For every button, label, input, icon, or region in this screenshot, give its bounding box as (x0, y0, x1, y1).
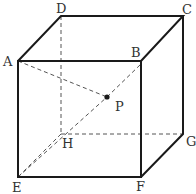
top-face-edges (18, 16, 183, 61)
label-P: P (115, 99, 124, 114)
label-C: C (182, 2, 192, 17)
hidden-edges (18, 16, 183, 177)
cube-diagram: A B C D E F G H P (0, 0, 196, 194)
right-face-edges (141, 16, 183, 177)
label-H: H (62, 136, 73, 151)
label-D: D (56, 1, 66, 16)
point-P-dot (104, 94, 109, 99)
label-E: E (12, 180, 22, 194)
diagonal-AP (18, 61, 107, 97)
label-G: G (186, 134, 196, 149)
visible-edges (18, 16, 183, 177)
label-A: A (2, 54, 13, 69)
label-B: B (131, 45, 141, 60)
front-face (18, 61, 141, 177)
diagonal-PC (107, 64, 141, 97)
label-F: F (136, 179, 145, 194)
